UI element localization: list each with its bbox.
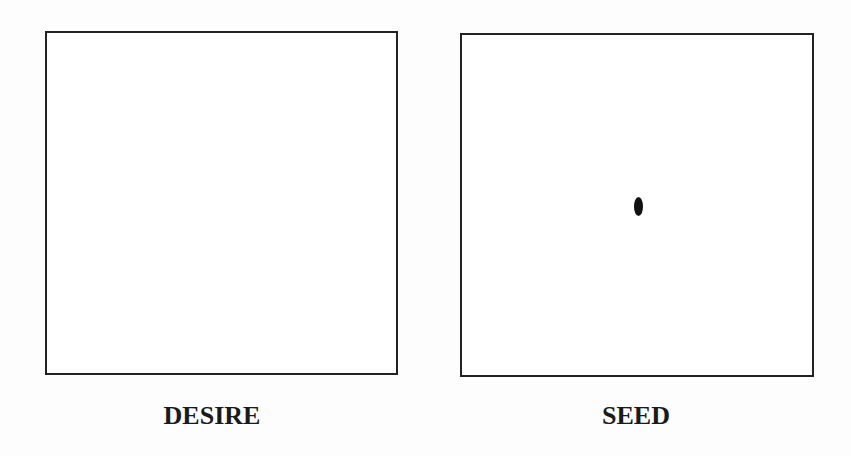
seed-panel (460, 33, 814, 377)
desire-panel (45, 31, 398, 375)
desire-label: DESIRE (62, 401, 362, 431)
seed-dot (634, 197, 643, 216)
seed-label: SEED (486, 401, 786, 431)
